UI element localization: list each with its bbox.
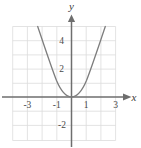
y-tick-label: -2 <box>58 120 66 130</box>
x-tick-label: -3 <box>23 100 31 110</box>
graph-canvas: x y -3 -1 1 3 4 2 -2 <box>0 0 141 148</box>
x-tick-label: 3 <box>113 100 118 110</box>
x-axis-label: x <box>131 91 137 103</box>
y-axis-label: y <box>68 0 74 12</box>
y-tick-label: 4 <box>59 36 64 46</box>
x-tick-label: -1 <box>53 100 61 110</box>
x-tick-label: 1 <box>84 100 89 110</box>
x-axis <box>2 93 132 100</box>
parabola-graph-figure: x y -3 -1 1 3 4 2 -2 <box>0 0 141 148</box>
x-axis-arrow-icon <box>123 93 132 100</box>
y-axis <box>68 15 75 148</box>
y-axis-arrow-icon <box>68 15 75 23</box>
y-tick-label: 2 <box>59 64 64 74</box>
axes <box>2 15 132 148</box>
